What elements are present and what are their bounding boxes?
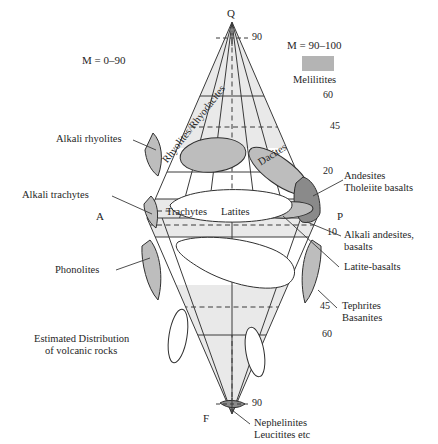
callout-alkali-andesites-line1: Alkali andesites, bbox=[344, 229, 414, 241]
tick-f60: 60 bbox=[322, 328, 332, 340]
tick-q45: 45 bbox=[330, 120, 340, 132]
legend-swatch-label: Melilitites bbox=[293, 74, 336, 86]
callout-latite-basalts: Latite-basalts bbox=[344, 261, 401, 273]
tick-f45: 45 bbox=[320, 300, 330, 312]
vertex-label-q: Q bbox=[227, 7, 235, 20]
tick-f90: 90 bbox=[252, 397, 262, 409]
field-label-trachytes: Trachytes bbox=[166, 206, 207, 218]
field-tephrites-basanites bbox=[302, 240, 321, 303]
vertex-label-f: F bbox=[203, 412, 209, 425]
field-lower-left-lens bbox=[165, 308, 191, 364]
legend-swatch-melilitites bbox=[302, 56, 334, 71]
tick-q20: 20 bbox=[323, 165, 333, 177]
field-phonolites bbox=[142, 240, 161, 300]
tick-p10: 10 bbox=[327, 226, 337, 238]
figure-caption-line2: of volcanic rocks bbox=[45, 345, 117, 357]
callout-nephelinites-line1: Nephelinites bbox=[254, 417, 307, 429]
field-label-latites: Latites bbox=[221, 206, 250, 218]
figure-caption-line1: Estimated Distribution bbox=[34, 333, 129, 345]
vertex-label-p: P bbox=[337, 210, 343, 223]
field-alkali-rhyolites bbox=[145, 133, 161, 176]
callout-andesites-line2: Tholeiite basalts bbox=[344, 182, 413, 194]
callout-andesites-line1: Andesites bbox=[344, 170, 385, 182]
qapf-diagram-canvas bbox=[0, 0, 438, 444]
legend-m-high: M = 90–100 bbox=[287, 39, 341, 52]
qapf-diagram-figure: Q 90 60 45 20 10 45 60 90 A P F M = 0–90… bbox=[0, 0, 438, 444]
tick-q90: 90 bbox=[252, 31, 262, 43]
callout-tephrites-line2: Basanites bbox=[342, 312, 382, 324]
legend-m-low: M = 0–90 bbox=[82, 54, 125, 67]
callout-alkali-andesites-line2: basalts bbox=[344, 241, 373, 253]
callout-alkali-rhyolites: Alkali rhyolites bbox=[56, 133, 122, 145]
callout-phonolites: Phonolites bbox=[55, 264, 99, 276]
callout-nephelinites-line2: Leucitites etc bbox=[254, 429, 310, 441]
callout-alkali-trachytes: Alkali trachytes bbox=[22, 189, 89, 201]
vertex-label-a: A bbox=[96, 210, 104, 223]
callout-tephrites-line1: Tephrites bbox=[342, 300, 381, 312]
tick-q60: 60 bbox=[323, 89, 333, 101]
